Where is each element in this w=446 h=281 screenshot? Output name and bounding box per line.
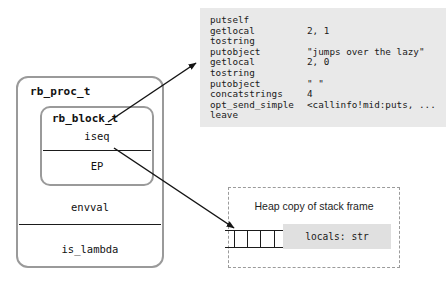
rb-block-t-label: rb_block_t <box>52 112 118 125</box>
frame-cell <box>261 231 274 247</box>
bytecode-listing: putselfgetlocal2, 1tostringputobject"jum… <box>200 8 446 127</box>
field-iseq: iseq <box>42 130 152 142</box>
heap-copy-panel: Heap copy of stack frame locals: str <box>228 187 400 268</box>
field-ep: EP <box>42 160 152 172</box>
rb-proc-t-divider <box>19 224 161 225</box>
rb-block-t-box: rb_block_t iseq EP <box>40 106 154 186</box>
bytecode-operand: <callinfo!mid:puts, ... <box>307 100 436 111</box>
rb-block-t-divider <box>43 150 151 151</box>
heap-copy-title: Heap copy of stack frame <box>229 200 399 212</box>
bytecode-opcode: tostring <box>210 68 307 79</box>
frame-cell <box>248 231 261 247</box>
bytecode-opcode: putself <box>210 15 307 26</box>
frame-cell-group <box>234 230 275 248</box>
bytecode-line: tostring <box>210 68 446 79</box>
stack-frame-cells <box>225 230 284 248</box>
frame-cell <box>235 231 248 247</box>
bytecode-line: putself <box>210 15 446 26</box>
bytecode-line: leave <box>210 110 446 121</box>
locals-chip: locals: str <box>283 224 391 249</box>
field-is-lambda: is_lambda <box>20 243 160 255</box>
bytecode-operand: 2, 1 <box>307 26 329 37</box>
bytecode-operand: 2, 0 <box>307 57 329 68</box>
proc-structure-diagram: rb_proc_t rb_block_t iseq EP envval is_l… <box>0 0 446 281</box>
rb-proc-t-label: rb_proc_t <box>30 85 91 98</box>
bytecode-line: opt_send_simple<callinfo!mid:puts, ... <box>210 100 446 111</box>
field-envval: envval <box>20 201 160 213</box>
rb-proc-t-box: rb_proc_t rb_block_t iseq EP envval is_l… <box>16 76 164 268</box>
bytecode-opcode: leave <box>210 110 307 121</box>
frame-stub-left <box>225 230 234 248</box>
